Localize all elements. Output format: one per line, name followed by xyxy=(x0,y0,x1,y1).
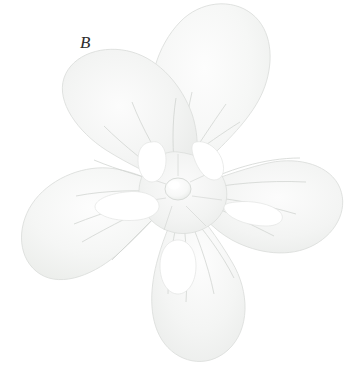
panel-label: B xyxy=(80,34,91,51)
flower-specimen-image xyxy=(0,0,346,377)
ovary xyxy=(165,178,191,200)
sinus-bottom xyxy=(160,240,196,294)
figure-panel: B xyxy=(0,0,346,377)
sinus-top-left xyxy=(138,142,166,182)
